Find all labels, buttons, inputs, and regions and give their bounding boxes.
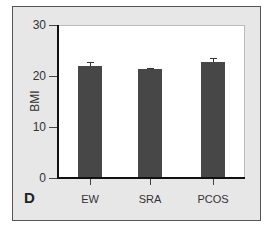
error-cap-ew bbox=[87, 62, 94, 63]
x-tick-pcos bbox=[213, 179, 214, 185]
error-cap-sra bbox=[147, 68, 154, 69]
x-tick-label-pcos: PCOS bbox=[188, 193, 238, 205]
x-tick-ew bbox=[90, 179, 91, 185]
y-tick-30 bbox=[49, 25, 57, 26]
bar-ew bbox=[78, 66, 102, 178]
x-tick-label-ew: EW bbox=[65, 193, 115, 205]
bar-sra bbox=[138, 69, 162, 178]
y-tick-10 bbox=[49, 127, 57, 128]
y-tick-label-10: 10 bbox=[16, 121, 46, 133]
y-tick-label-0: 0 bbox=[16, 172, 46, 184]
panel-label: D bbox=[24, 189, 35, 206]
x-tick-sra bbox=[150, 179, 151, 185]
y-tick-20 bbox=[49, 76, 57, 77]
error-cap-pcos bbox=[210, 58, 217, 59]
x-tick-label-sra: SRA bbox=[125, 193, 175, 205]
y-tick-label-30: 30 bbox=[16, 19, 46, 31]
y-tick-label-20: 20 bbox=[16, 70, 46, 82]
y-tick-0 bbox=[49, 178, 57, 179]
y-axis-title: BMI bbox=[28, 86, 42, 116]
bar-pcos bbox=[201, 62, 225, 178]
y-axis bbox=[57, 25, 59, 179]
x-axis bbox=[57, 177, 245, 179]
